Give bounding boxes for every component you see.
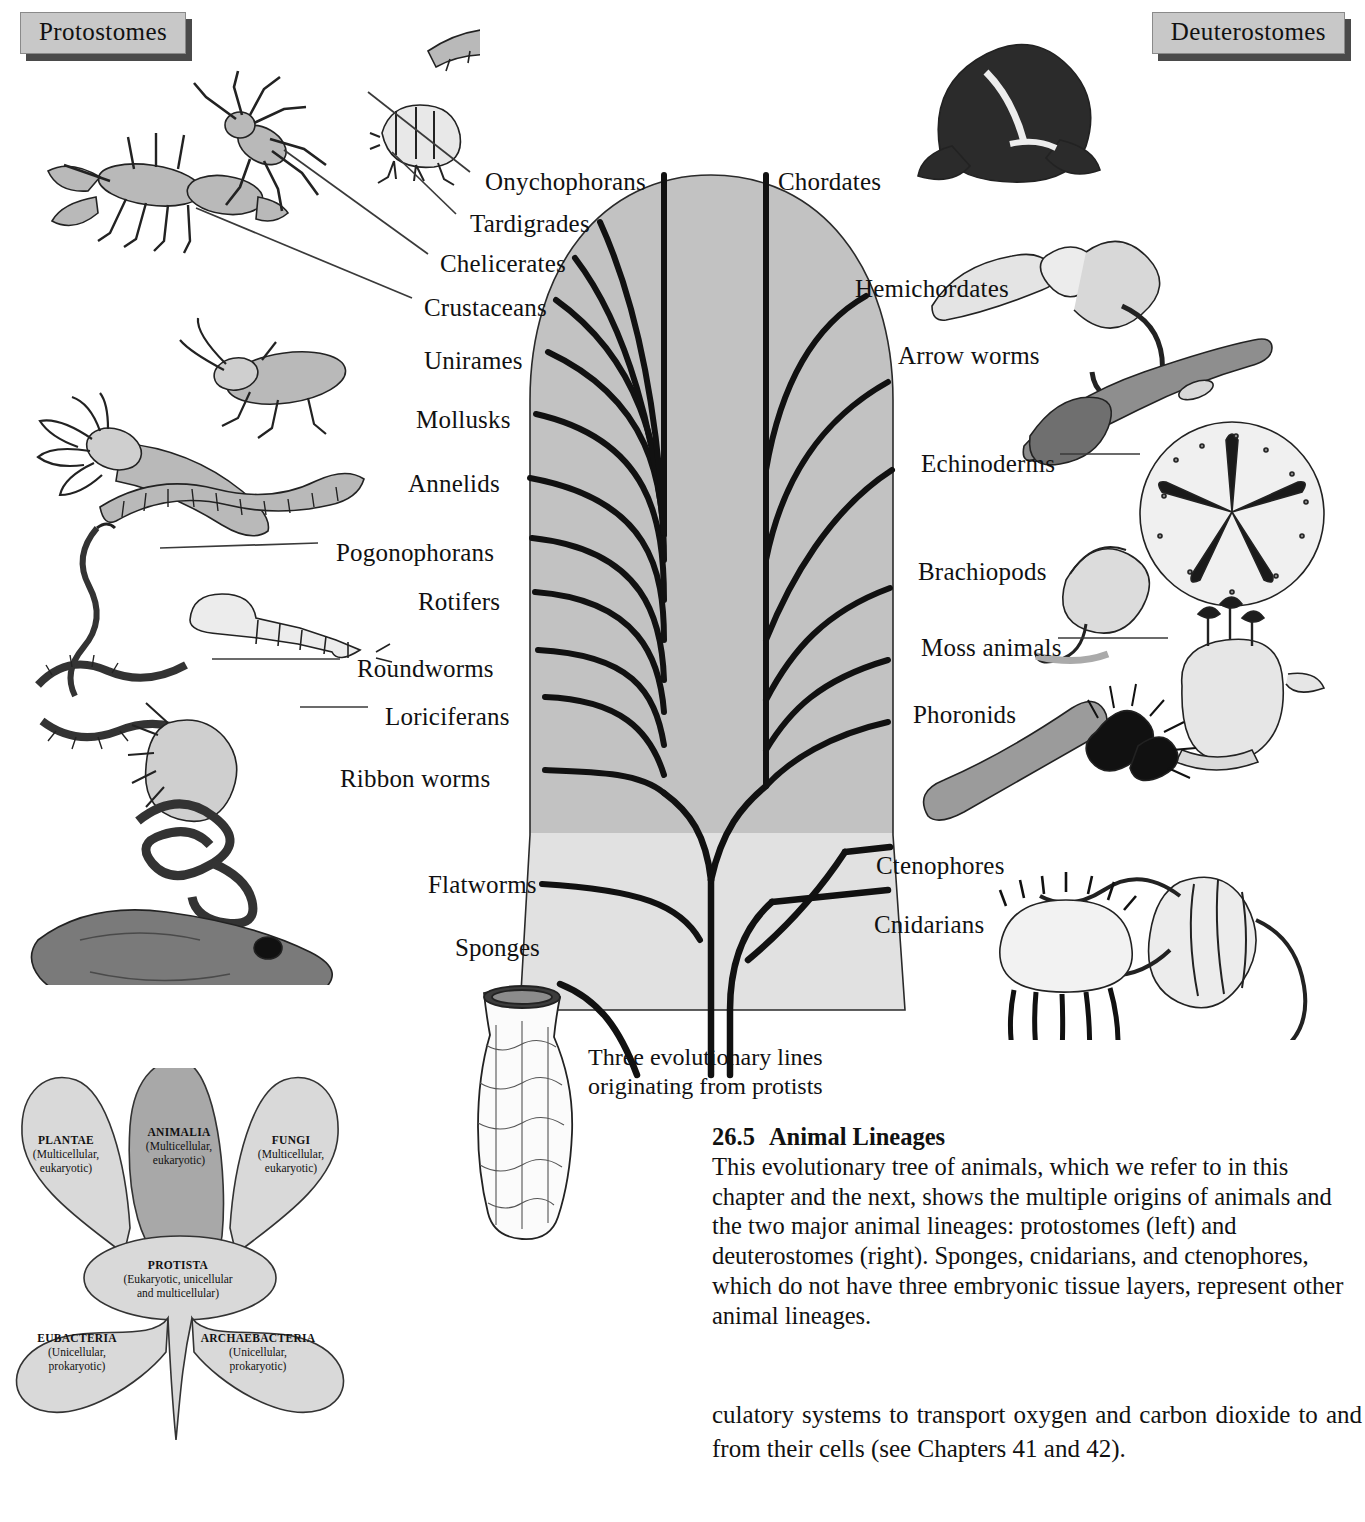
kingdom-name: PLANTAE [38,1134,94,1146]
kingdom-name: ARCHAEBACTERIA [201,1332,316,1344]
taxon-label-tardigrades: Tardigrades [470,210,590,238]
taxon-label-echinoderms: Echinoderms [921,450,1055,478]
kingdom-subtitle-line: prokaryotic) [198,1359,318,1373]
figure-canvas: Protostomes Deuterostomes OnychophoransT… [0,0,1365,1522]
kingdom-label-archaebacteria: ARCHAEBACTERIA(Unicellular,prokaryotic) [198,1331,318,1373]
kingdom-subtitle-line: prokaryotic) [17,1359,137,1373]
sponge-illustration [440,975,630,1255]
root-note: Three evolutionary linesoriginating from… [588,1043,823,1102]
taxon-label-crustaceans: Crustaceans [424,294,547,322]
kingdom-subtitle-line: eukaryotic) [119,1153,239,1167]
kingdom-subtitle-line: (Multicellular, [6,1147,126,1161]
taxon-label-loriciferans: Loriciferans [385,703,510,731]
kingdom-subtitle-line: (Unicellular, [17,1345,137,1359]
taxon-label-cnidarians: Cnidarians [874,911,984,939]
caption-title: Animal Lineages [769,1123,945,1150]
taxon-label-brachiopods: Brachiopods [918,558,1047,586]
taxon-label-unirames: Unirames [424,347,523,375]
kingdom-name: EUBACTERIA [37,1332,117,1344]
root-note-line: originating from protists [588,1072,823,1101]
kingdom-subtitle-line: (Eukaryotic, unicellular [118,1272,238,1286]
taxon-label-arrow-worms: Arrow worms [898,342,1040,370]
taxon-label-rotifers: Rotifers [418,588,500,616]
kingdom-label-eubacteria: EUBACTERIA(Unicellular,prokaryotic) [17,1331,137,1373]
kingdom-subtitle-line: eukaryotic) [6,1161,126,1175]
kingdom-subtitle-line: eukaryotic) [231,1161,351,1175]
kingdom-subtitle-line: (Multicellular, [231,1147,351,1161]
taxon-label-onychophorans: Onychophorans [485,168,646,196]
taxon-label-ctenophores: Ctenophores [876,852,1005,880]
figure-caption: 26.5Animal Lineages This evolutionary tr… [712,1122,1362,1330]
taxon-label-flatworms: Flatworms [428,871,537,899]
taxon-label-ribbon-worms: Ribbon worms [340,765,490,793]
taxon-label-roundworms: Roundworms [357,655,494,683]
taxon-label-annelids: Annelids [408,470,500,498]
taxon-label-chelicerates: Chelicerates [440,250,566,278]
kingdom-label-animalia: ANIMALIA(Multicellular,eukaryotic) [119,1125,239,1167]
column-body-text: culatory systems to transport oxygen and… [712,1398,1362,1465]
caption-title-line: 26.5Animal Lineages [712,1122,1362,1152]
taxon-label-chordates: Chordates [778,168,881,196]
kingdom-label-fungi: FUNGI(Multicellular,eukaryotic) [231,1133,351,1175]
sponges-label: Sponges [455,934,540,962]
taxon-label-moss-animals: Moss animals [921,634,1062,662]
taxon-label-pogonophorans: Pogonophorans [336,539,494,567]
kingdom-name: PROTISTA [148,1259,208,1271]
leader-lines [0,0,1365,1000]
taxon-label-hemichordates: Hemichordates [855,275,1009,303]
kingdom-name: ANIMALIA [147,1126,210,1138]
kingdom-name: FUNGI [272,1134,311,1146]
root-note-line: Three evolutionary lines [588,1043,823,1072]
kingdom-subtitle-line: (Unicellular, [198,1345,318,1359]
kingdom-subtitle-line: and multicellular) [118,1286,238,1300]
caption-body: This evolutionary tree of animals, which… [712,1152,1362,1331]
kingdom-subtitle-line: (Multicellular, [119,1139,239,1153]
taxon-label-mollusks: Mollusks [416,406,511,434]
kingdom-label-protista: PROTISTA(Eukaryotic, unicellularand mult… [118,1258,238,1300]
kingdom-label-plantae: PLANTAE(Multicellular,eukaryotic) [6,1133,126,1175]
taxon-label-phoronids: Phoronids [913,701,1016,729]
caption-number: 26.5 [712,1123,755,1150]
